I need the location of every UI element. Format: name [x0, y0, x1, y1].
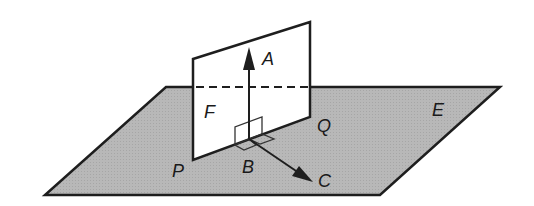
label-q: Q	[317, 117, 331, 135]
label-c: C	[318, 172, 331, 190]
perpendicular-planes-diagram	[0, 0, 534, 206]
label-a: A	[262, 50, 274, 68]
label-b: B	[242, 158, 254, 176]
label-f: F	[204, 103, 215, 121]
label-p: P	[172, 162, 184, 180]
label-e: E	[432, 101, 444, 119]
